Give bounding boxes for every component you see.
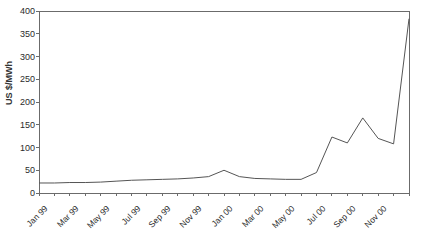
data-series-line (39, 19, 409, 183)
plot-area (0, 0, 422, 237)
line-chart: US $/MWh 050100150200250300350400 Jan 99… (0, 0, 422, 237)
chart-axes (36, 11, 409, 196)
